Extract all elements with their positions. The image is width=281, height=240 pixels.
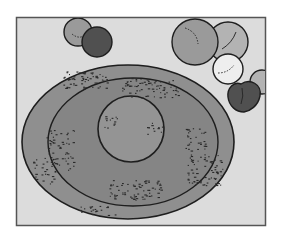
speckle-dot: [160, 190, 163, 191]
speckle-dot: [121, 185, 123, 186]
speckle-dot: [112, 118, 114, 119]
speckle-dot: [105, 127, 106, 128]
speckle-dot: [66, 143, 67, 144]
speckle-dot: [58, 145, 60, 146]
speckle-dot: [111, 192, 112, 193]
speckle-dot: [178, 95, 180, 96]
speckle-dot: [35, 174, 38, 175]
speckle-dot: [53, 140, 56, 141]
speckle-dot: [218, 155, 219, 156]
speckle-dot: [157, 85, 159, 86]
speckle-dot: [147, 134, 149, 135]
speckle-dot: [160, 184, 161, 185]
speckle-dot: [62, 142, 64, 143]
speckle-dot: [55, 159, 56, 160]
speckle-dot: [194, 164, 195, 165]
speckle-dot: [85, 79, 87, 80]
speckle-dot: [47, 161, 49, 162]
speckle-dot: [108, 215, 110, 216]
speckle-dot: [62, 158, 64, 159]
speckle-dot: [45, 158, 46, 159]
speckle-dot: [110, 120, 111, 121]
speckle-dot: [196, 184, 197, 185]
speckle-dot: [131, 198, 133, 199]
speckle-dot: [175, 90, 176, 91]
speckle-dot: [198, 143, 200, 144]
speckle-dot: [163, 90, 166, 91]
speckle-dot: [65, 158, 66, 159]
speckle-dot: [33, 162, 36, 163]
speckle-dot: [153, 91, 155, 92]
speckle-dot: [116, 186, 118, 187]
speckle-dot: [141, 185, 143, 186]
speckle-dot: [114, 121, 116, 122]
speckle-dot: [113, 125, 115, 126]
speckle-dot: [85, 72, 87, 73]
speckle-dot: [159, 189, 160, 190]
speckle-dot: [49, 154, 51, 155]
speckle-dot: [151, 125, 154, 126]
speckle-dot: [73, 162, 76, 163]
speckle-dot: [52, 176, 54, 177]
speckle-dot: [147, 80, 150, 81]
speckle-dot: [122, 194, 123, 195]
speckle-dot: [82, 78, 84, 79]
speckle-dot: [164, 94, 166, 95]
speckle-dot: [196, 169, 198, 170]
speckle-dot: [139, 90, 140, 91]
speckle-dot: [164, 97, 166, 98]
speckle-dot: [51, 166, 53, 167]
speckle-dot: [92, 214, 94, 215]
speckle-dot: [73, 76, 75, 77]
speckle-dot: [145, 183, 147, 184]
speckle-dot: [211, 163, 213, 164]
speckle-dot: [42, 167, 44, 168]
speckle-dot: [178, 91, 179, 92]
speckle-dot: [196, 173, 199, 174]
speckle-dot: [148, 83, 150, 84]
speckle-dot: [134, 186, 135, 187]
speckle-dot: [148, 182, 150, 183]
speckle-dot: [112, 193, 113, 194]
speckle-dot: [42, 174, 44, 175]
speckle-dot: [43, 164, 45, 165]
speckle-dot: [73, 130, 75, 131]
speckle-dot: [188, 180, 190, 181]
speckle-dot: [190, 142, 192, 143]
speckle-dot: [204, 154, 205, 155]
speckle-dot: [35, 177, 36, 178]
speckle-dot: [144, 82, 146, 83]
speckle-dot: [102, 76, 103, 77]
large-gray-sphere: [172, 19, 218, 65]
speckle-dot: [139, 83, 141, 84]
speckle-dot: [59, 165, 60, 166]
speckle-dot: [83, 88, 85, 89]
speckle-dot: [118, 190, 120, 191]
speckle-dot: [145, 84, 147, 85]
speckle-dot: [169, 82, 171, 83]
speckle-dot: [200, 142, 201, 143]
speckle-dot: [57, 163, 58, 164]
speckle-dot: [47, 137, 49, 138]
speckle-dot: [52, 164, 54, 165]
speckle-dot: [139, 186, 140, 187]
speckle-dot: [73, 83, 74, 84]
speckle-dot: [187, 145, 189, 146]
speckle-dot: [130, 81, 132, 82]
speckle-dot: [154, 131, 156, 132]
speckle-dot: [54, 130, 56, 131]
speckle-dot: [67, 163, 69, 164]
speckle-dot: [68, 144, 70, 145]
speckle-dot: [50, 183, 51, 184]
speckle-dot: [148, 88, 150, 89]
speckle-dot: [101, 210, 103, 211]
speckle-dot: [85, 87, 87, 88]
speckle-dot: [206, 185, 208, 186]
speckle-dot: [152, 188, 154, 189]
speckle-dot: [200, 181, 202, 182]
speckle-dot: [73, 142, 75, 143]
speckle-dot: [83, 87, 85, 88]
speckle-dot: [136, 80, 138, 81]
speckle-dot: [216, 172, 218, 173]
speckle-dot: [73, 84, 74, 85]
